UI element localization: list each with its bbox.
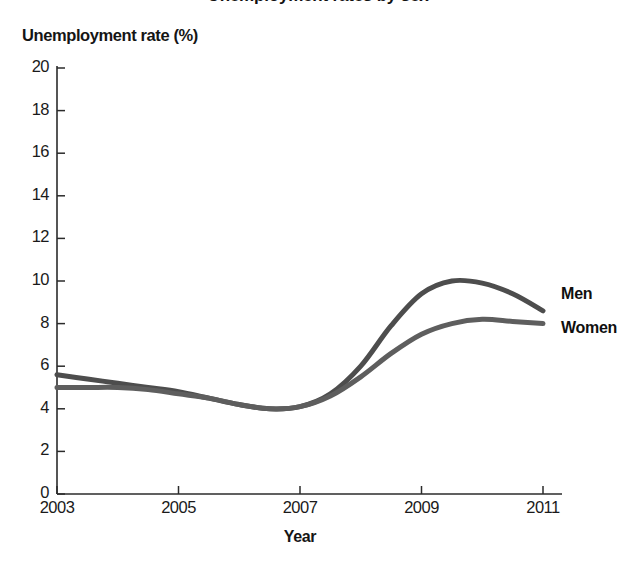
y-axis-tick-label: 6 bbox=[9, 355, 49, 374]
y-axis-tick-label: 4 bbox=[9, 398, 49, 417]
x-axis-tick-label: 2005 bbox=[144, 498, 214, 517]
y-axis-tick-label: 18 bbox=[9, 100, 49, 119]
series-label-women: Women bbox=[561, 319, 617, 337]
y-axis-tick-label: 12 bbox=[9, 227, 49, 246]
y-axis-tick-label: 8 bbox=[9, 313, 49, 332]
x-axis-tick-label: 2007 bbox=[265, 498, 335, 517]
y-axis-tick-label: 16 bbox=[9, 142, 49, 161]
data-series bbox=[57, 280, 543, 409]
x-axis-tick-label: 2003 bbox=[22, 498, 92, 517]
series-line-women bbox=[57, 319, 543, 409]
y-axis-tick-label: 2 bbox=[9, 440, 49, 459]
y-axis-tick-label: 20 bbox=[9, 57, 49, 76]
unemployment-rate-line-chart: Unemployment rates by sex Unemployment r… bbox=[0, 0, 636, 569]
x-axis-title: Year bbox=[0, 528, 600, 546]
series-label-men: Men bbox=[561, 285, 592, 303]
plot-area bbox=[0, 0, 636, 569]
axes bbox=[57, 66, 562, 494]
x-axis-tick-label: 2009 bbox=[387, 498, 457, 517]
y-axis-tick-label: 10 bbox=[9, 270, 49, 289]
y-axis-tick-label: 14 bbox=[9, 185, 49, 204]
x-axis-tick-label: 2011 bbox=[508, 498, 578, 517]
